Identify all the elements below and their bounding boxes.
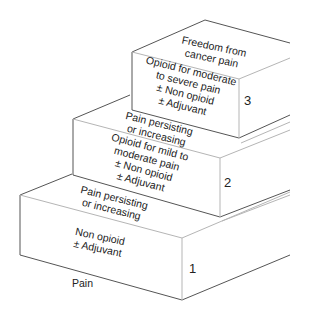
step-1-number: 1 <box>189 261 196 276</box>
start-label-pain: Pain <box>72 277 93 289</box>
step-3-number: 3 <box>244 93 251 108</box>
step-2-number: 2 <box>224 175 231 190</box>
